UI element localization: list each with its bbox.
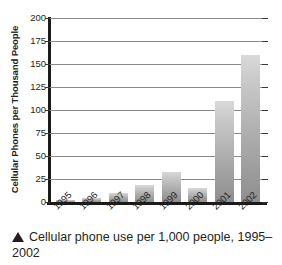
y-axis-tick-label: 25: [22, 174, 46, 184]
y-axis-tick-mark-right: [262, 87, 268, 88]
y-axis-tick-mark-right: [262, 133, 268, 134]
bar-series: [50, 18, 262, 202]
figure-caption-text: Cellular phone use per 1,000 people, 199…: [12, 230, 272, 260]
y-axis-tick-mark-right: [262, 179, 268, 180]
y-axis-tick-label: 125: [22, 82, 46, 92]
y-axis-tick-mark-right: [262, 64, 268, 65]
y-axis-tick-mark-right: [262, 110, 268, 111]
plot-area: [50, 18, 262, 202]
bar: [241, 55, 260, 202]
y-axis-tick-label: 75: [22, 128, 46, 138]
y-axis-tick-mark-right: [262, 41, 268, 42]
y-axis-tick-label: 150: [22, 59, 46, 69]
y-axis-tick-label: 50: [22, 151, 46, 161]
figure: Cellular Phones per Thousand People 0255…: [0, 0, 282, 265]
y-axis-tick-mark-right: [262, 202, 268, 203]
y-axis-tick-label: 200: [22, 13, 46, 23]
y-axis-tick-mark-right: [262, 18, 268, 19]
y-axis-tick-label: 0: [22, 197, 46, 207]
bar-chart: Cellular Phones per Thousand People 0255…: [0, 0, 282, 222]
y-axis-tick-labels: 0255075100125150175200: [22, 12, 46, 204]
y-axis-tick-mark-right: [262, 156, 268, 157]
y-axis-tick-mark: [45, 202, 50, 203]
y-axis-title: Cellular Phones per Thousand People: [9, 22, 20, 198]
bar: [215, 101, 234, 202]
y-axis-tick-label: 100: [22, 105, 46, 115]
figure-caption: Cellular phone use per 1,000 people, 199…: [12, 229, 274, 261]
y-axis-tick-label: 175: [22, 36, 46, 46]
up-triangle-icon: [12, 232, 24, 242]
